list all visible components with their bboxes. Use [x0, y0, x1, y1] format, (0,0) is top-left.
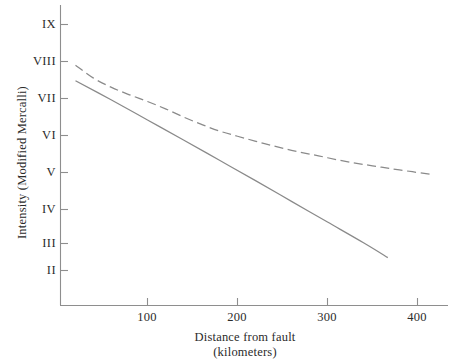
- x-axis-ticks: [148, 298, 418, 306]
- x-axis-title: Distance from fault (kilometers): [0, 330, 454, 360]
- xtick-label-400: 400: [407, 310, 427, 325]
- series-upper-dashed-curve: [76, 65, 432, 174]
- y-axis-title: Intensity (Modified Mercalli): [15, 53, 30, 273]
- xtick-label-100: 100: [137, 310, 157, 325]
- xtick-label-300: 300: [317, 310, 337, 325]
- xtick-label-200: 200: [227, 310, 247, 325]
- x-axis-title-line1: Distance from fault: [36, 330, 454, 345]
- series-lower-solid-curve: [76, 81, 388, 258]
- y-axis-ticks: [61, 25, 69, 271]
- attenuation-chart-figure: IX VIII VII VI V IV III II 100 200 300 4…: [0, 0, 454, 363]
- ytick-label-ix: IX: [14, 17, 56, 32]
- x-axis-title-units: (kilometers): [36, 345, 454, 360]
- plot-canvas: [0, 0, 454, 363]
